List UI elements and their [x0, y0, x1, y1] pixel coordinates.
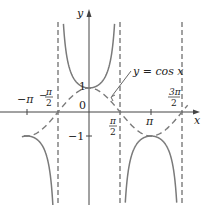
- secant-branch-left: [22, 136, 53, 205]
- fraction-numerator: π: [109, 116, 117, 126]
- vertical-asymptotes: [58, 22, 182, 205]
- fraction-denominator: 2: [110, 127, 116, 137]
- y-axis-label: y: [76, 7, 84, 20]
- x-tick-neg-pi-half: − π 2: [39, 87, 53, 108]
- axes: [0, 16, 195, 205]
- fraction-numerator: π: [45, 87, 53, 97]
- x-axis-label: x: [194, 114, 201, 127]
- annotation-y-equals-cos-x: y = cos x: [132, 65, 184, 78]
- fraction-denominator: 2: [46, 98, 52, 108]
- x-tick-pi: π: [145, 115, 154, 128]
- y-tick-neg-one: −1: [68, 130, 84, 143]
- secant-cosine-graph: y x 0 1 −1 −π − π 2 π 2 π 3π 2 y = cos x: [0, 0, 202, 214]
- annotation-arrow-icon: [111, 95, 115, 101]
- origin-label: 0: [79, 99, 86, 112]
- x-tick-pi-half: π 2: [109, 116, 117, 137]
- y-axis-arrow-icon: [87, 9, 92, 17]
- y-tick-one: 1: [79, 80, 86, 93]
- x-tick-three-pi-half: 3π 2: [168, 87, 182, 108]
- fraction-numerator: 3π: [169, 87, 182, 97]
- x-tick-neg-pi: −π: [17, 93, 34, 106]
- secant-branch-right: [125, 136, 176, 203]
- annotation-leader-line: [112, 71, 131, 96]
- fraction-denominator: 2: [171, 98, 177, 108]
